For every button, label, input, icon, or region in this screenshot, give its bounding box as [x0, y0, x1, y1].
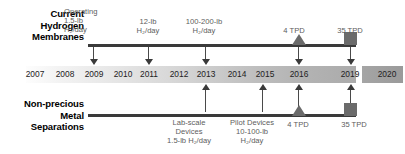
- year-label-2007: 2007: [20, 66, 50, 83]
- bottom-row-title: Non-precious Metal Separations: [0, 98, 84, 133]
- bottom-row-title-line-1: Non-precious: [0, 98, 84, 110]
- connector-up-2015: [262, 89, 263, 112]
- top-callout-2013-line-1: 100-200-lb: [168, 17, 240, 26]
- bottom-row-title-line-2: Metal: [0, 110, 84, 122]
- top-callout-2016-line-1: 4 TPD: [272, 26, 316, 35]
- arrow-up-icon-2015: [259, 84, 267, 90]
- bottom-callout-2015-line-3: H₂/day: [220, 136, 284, 145]
- top-callout-2009-line-1: Operating: [64, 7, 120, 16]
- bottom-callout-2016-line-1: 4 TPD: [276, 120, 320, 129]
- bottom-timeline-line: [88, 114, 356, 117]
- bottom-callout-2015-line-2: 10-100-lb: [220, 127, 284, 136]
- top-timeline-line: [88, 44, 356, 47]
- year-label-2012: 2012: [164, 66, 194, 83]
- year-axis-bar: 2007 2008 2009 2010 2011 2012 2013 2014 …: [0, 66, 405, 83]
- year-label-2015: 2015: [250, 66, 280, 83]
- top-callout-2013-line-2: H₂/day: [168, 26, 240, 35]
- bottom-row-title-line-3: Separations: [0, 121, 84, 133]
- bottom-callout-2013-line-3: 1.5-lb H₂/day: [160, 136, 218, 145]
- bottom-callout-2013: Lab-scale Devices 1.5-lb H₂/day: [160, 118, 218, 146]
- year-label-2009: 2009: [79, 66, 109, 83]
- top-callout-2009-line-2: 1.5-lb: [64, 16, 120, 25]
- timeline-diagram: Current Hydrogen Membranes Operating 1.5…: [0, 0, 405, 154]
- year-label-2020: 2020: [372, 66, 402, 83]
- top-timeline-triangle-marker: [292, 34, 306, 45]
- year-label-2013: 2013: [191, 66, 221, 83]
- arrow-up-icon-2013: [202, 84, 210, 90]
- year-label-2014: 2014: [222, 66, 252, 83]
- bottom-callout-2020: 35 TPD: [326, 120, 382, 129]
- top-callout-2020: 35 TPD: [322, 26, 378, 35]
- arrow-down-icon-2013: [202, 59, 210, 65]
- arrow-down-icon-2016: [295, 59, 303, 65]
- bottom-callout-2016: 4 TPD: [276, 120, 320, 129]
- top-callout-2013: 100-200-lb H₂/day: [168, 17, 240, 35]
- top-callout-2009-line-3: H₂/day: [64, 25, 120, 34]
- year-label-2011: 2011: [134, 66, 164, 83]
- arrow-down-icon-2020: [347, 59, 355, 65]
- top-callout-2020-line-1: 35 TPD: [322, 26, 378, 35]
- connector-up-2013: [205, 89, 206, 112]
- year-label-2016: 2016: [284, 66, 314, 83]
- top-callout-2011-line-2: H₂/day: [124, 26, 172, 35]
- year-label-2019: 2019: [335, 66, 365, 83]
- arrow-up-icon-2016: [295, 84, 303, 90]
- top-callout-2011-line-1: 12-lb: [124, 17, 172, 26]
- arrow-down-icon-2009: [90, 59, 98, 65]
- bottom-timeline-triangle-marker: [292, 105, 306, 116]
- year-label-2008: 2008: [50, 66, 80, 83]
- arrow-up-icon-2020: [347, 84, 355, 90]
- bottom-callout-2020-line-1: 35 TPD: [326, 120, 382, 129]
- bottom-timeline-square-marker: [344, 103, 357, 116]
- arrow-down-icon-2011: [145, 59, 153, 65]
- bottom-callout-2013-line-2: Devices: [160, 127, 218, 136]
- top-callout-2016: 4 TPD: [272, 26, 316, 35]
- bottom-callout-2013-line-1: Lab-scale: [160, 118, 218, 127]
- top-callout-2009: Operating 1.5-lb H₂/day: [64, 7, 120, 35]
- top-callout-2011: 12-lb H₂/day: [124, 17, 172, 35]
- bottom-callout-2015: Pilot Devices 10-100-lb H₂/day: [220, 118, 284, 146]
- bottom-callout-2015-line-1: Pilot Devices: [220, 118, 284, 127]
